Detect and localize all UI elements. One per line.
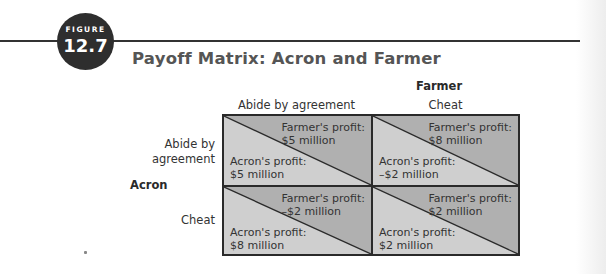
cell-abide-cheat: Farmer's profit: $8 million Acron's prof… (373, 116, 522, 187)
cell-abide-abide: Farmer's profit: $5 million Acron's prof… (224, 116, 373, 187)
acron-payoff-label: Acron's profit: (230, 226, 307, 239)
column-player-label: Farmer (416, 79, 462, 93)
farmer-payoff-label: Farmer's profit: (428, 192, 512, 205)
acron-payoff-label: Acron's profit: (379, 155, 456, 168)
acron-payoff-value: $8 million (230, 239, 307, 252)
farmer-payoff: Farmer's profit: $5 million (281, 121, 365, 147)
figure-title: Payoff Matrix: Acron and Farmer (132, 49, 441, 68)
acron-payoff-label: Acron's profit: (230, 155, 307, 168)
farmer-payoff-label: Farmer's profit: (281, 121, 365, 134)
column-header-cheat: Cheat (371, 98, 520, 112)
acron-payoff: Acron's profit: $5 million (230, 155, 307, 181)
acron-payoff: Acron's profit: –$2 million (379, 155, 456, 181)
farmer-payoff: Farmer's profit: $8 million (428, 121, 512, 147)
cell-cheat-abide: Farmer's profit: –$2 million Acron's pro… (224, 187, 373, 258)
acron-payoff-value: $5 million (230, 168, 307, 181)
acron-payoff-value: $2 million (379, 239, 456, 252)
row-header-cheat-line1: Cheat (181, 213, 215, 228)
farmer-payoff-value: –$2 million (281, 205, 365, 218)
row-player-label: Acron (130, 178, 167, 192)
acron-payoff-label: Acron's profit: (379, 226, 456, 239)
payoff-matrix: Farmer's profit: $5 million Acron's prof… (222, 114, 520, 256)
farmer-payoff: Farmer's profit: $2 million (428, 192, 512, 218)
page-edge-shadow (576, 0, 606, 274)
farmer-payoff-value: $8 million (428, 134, 512, 147)
farmer-payoff-label: Farmer's profit: (281, 192, 365, 205)
scan-speck (84, 251, 87, 254)
figure-badge: FIGURE 12.7 (57, 13, 114, 70)
farmer-payoff: Farmer's profit: –$2 million (281, 192, 365, 218)
acron-payoff-value: –$2 million (379, 168, 456, 181)
column-header-abide: Abide by agreement (222, 98, 371, 112)
figure-label: FIGURE (57, 25, 114, 34)
figure-number: 12.7 (57, 35, 114, 56)
acron-payoff: Acron's profit: $2 million (379, 226, 456, 252)
acron-payoff: Acron's profit: $8 million (230, 226, 307, 252)
row-header-abide-line2: agreement (152, 152, 215, 167)
row-header-abide: Abide by agreement (152, 137, 215, 167)
row-header-cheat: Cheat (181, 213, 215, 228)
matrix-horizontal-divider (224, 185, 518, 187)
farmer-payoff-value: $2 million (428, 205, 512, 218)
cell-cheat-cheat: Farmer's profit: $2 million Acron's prof… (373, 187, 522, 258)
farmer-payoff-label: Farmer's profit: (428, 121, 512, 134)
farmer-payoff-value: $5 million (281, 134, 365, 147)
row-header-abide-line1: Abide by (152, 137, 215, 152)
